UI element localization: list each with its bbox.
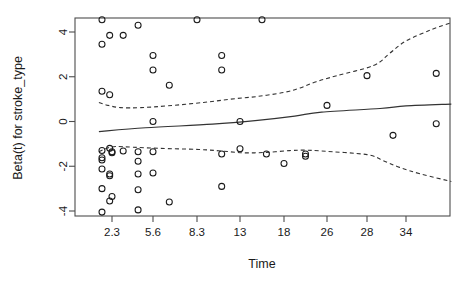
x-tick-label: 34 (400, 226, 413, 238)
x-tick-label: 26 (321, 226, 334, 238)
x-tick-label: 5.6 (145, 226, 161, 238)
x-axis-title: Time (248, 257, 275, 271)
y-tick-label: -2 (57, 161, 69, 171)
y-tick-label: 2 (57, 74, 69, 80)
x-tick-label: 18 (278, 226, 291, 238)
schoenfeld-residual-plot: 2.35.68.31318262834 420-2-4 Time Beta(t)… (0, 0, 474, 283)
x-tick-label: 2.3 (104, 226, 120, 238)
x-tick-label: 28 (361, 226, 374, 238)
y-tick-label: -4 (57, 205, 69, 216)
y-axis-title: Beta(t) for stroke_type (11, 56, 25, 180)
y-tick-label: 0 (57, 118, 69, 124)
x-tick-label: 13 (234, 226, 247, 238)
x-tick-label: 8.3 (189, 226, 205, 238)
y-tick-label: 4 (57, 28, 69, 35)
cox-zph-plot-figure: 2.35.68.31318262834 420-2-4 Time Beta(t)… (0, 0, 474, 283)
